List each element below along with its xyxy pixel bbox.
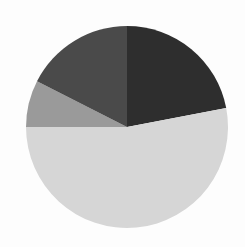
pie-slices [26, 26, 228, 228]
pie-chart-canvas [0, 0, 245, 247]
pie-chart [0, 0, 245, 247]
